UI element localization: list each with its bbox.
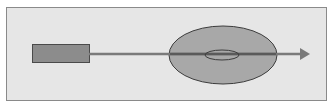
source-rectangle bbox=[33, 45, 90, 63]
diagram-canvas bbox=[0, 0, 333, 107]
